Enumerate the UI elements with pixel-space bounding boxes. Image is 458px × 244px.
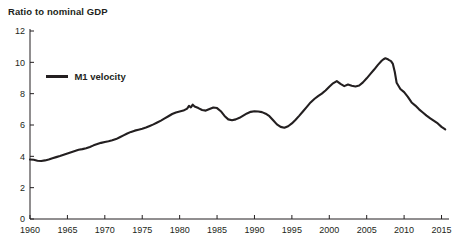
x-tick-label: 2000 [319, 225, 339, 235]
x-tick-label: 1970 [95, 225, 115, 235]
x-axis: 1960196519701975198019851990199520002005… [20, 215, 452, 235]
x-tick-label: 1965 [57, 225, 77, 235]
x-tick-label: 1985 [207, 225, 227, 235]
legend-swatch-m1-velocity [46, 75, 68, 78]
x-tick-label: 2015 [432, 225, 452, 235]
chart-legend: M1 velocity [46, 71, 125, 82]
x-tick-label: 1990 [244, 225, 264, 235]
chart-plot-area: 024681012 196019651970197519801985199019… [0, 0, 458, 244]
y-tick-label: 8 [20, 89, 25, 99]
x-tick-label: 1980 [170, 225, 190, 235]
x-tick-label: 2010 [394, 225, 414, 235]
x-tick-label: 1995 [282, 225, 302, 235]
y-tick-label: 6 [20, 120, 25, 130]
y-tick-label: 2 [20, 183, 25, 193]
y-tick-label: 4 [20, 152, 25, 162]
x-tick-label: 2005 [357, 225, 377, 235]
x-tick-label: 1960 [20, 225, 40, 235]
chart-container: Ratio to nominal GDP 024681012 196019651… [0, 0, 458, 244]
y-axis: 024681012 [15, 26, 34, 224]
y-tick-label: 10 [15, 58, 25, 68]
y-tick-label: 0 [20, 214, 25, 224]
y-tick-label: 12 [15, 26, 25, 36]
x-tick-label: 1975 [132, 225, 152, 235]
legend-label-m1-velocity: M1 velocity [74, 71, 125, 82]
